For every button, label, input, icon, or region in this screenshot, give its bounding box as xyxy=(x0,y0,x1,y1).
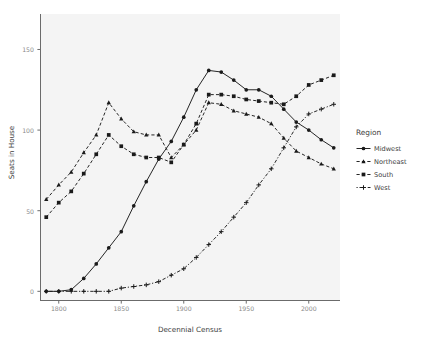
legend-key-icon xyxy=(355,142,372,155)
x-tick-label: 1800 xyxy=(39,305,79,312)
x-tick-label: 1850 xyxy=(101,305,141,312)
legend-title: Region xyxy=(355,128,429,137)
x-tick-label: 2000 xyxy=(289,305,329,312)
axis-tick-marks xyxy=(37,49,308,303)
legend-key-icon xyxy=(355,155,372,168)
x-axis-title: Decennial Census xyxy=(100,325,280,334)
series-layer xyxy=(44,69,336,294)
legend: Region MidwestNortheastSouthWest xyxy=(355,128,429,194)
series-midwest xyxy=(44,69,335,294)
y-tick-label: 50 xyxy=(10,208,34,215)
legend-key-icon xyxy=(355,168,372,181)
legend-items: MidwestNortheastSouthWest xyxy=(355,142,429,194)
legend-item-south[interactable]: South xyxy=(355,168,429,181)
legend-item-label: Northeast xyxy=(372,158,407,166)
legend-item-label: Midwest xyxy=(372,145,401,153)
legend-item-northeast[interactable]: Northeast xyxy=(355,155,429,168)
legend-item-label: South xyxy=(372,171,393,179)
y-tick-label: 0 xyxy=(10,288,34,295)
legend-item-west[interactable]: West xyxy=(355,181,429,194)
legend-item-midwest[interactable]: Midwest xyxy=(355,142,429,155)
legend-key-icon xyxy=(355,181,372,194)
legend-item-label: West xyxy=(372,184,390,192)
series-northeast xyxy=(44,100,336,201)
x-tick-label: 1950 xyxy=(226,305,266,312)
chart-root: 050100150 18001850190019502000 Seats in … xyxy=(0,0,430,343)
x-tick-label: 1900 xyxy=(164,305,204,312)
y-axis-title: Seats in House xyxy=(7,118,16,188)
series-west xyxy=(44,102,336,294)
y-tick-label: 150 xyxy=(10,46,34,53)
